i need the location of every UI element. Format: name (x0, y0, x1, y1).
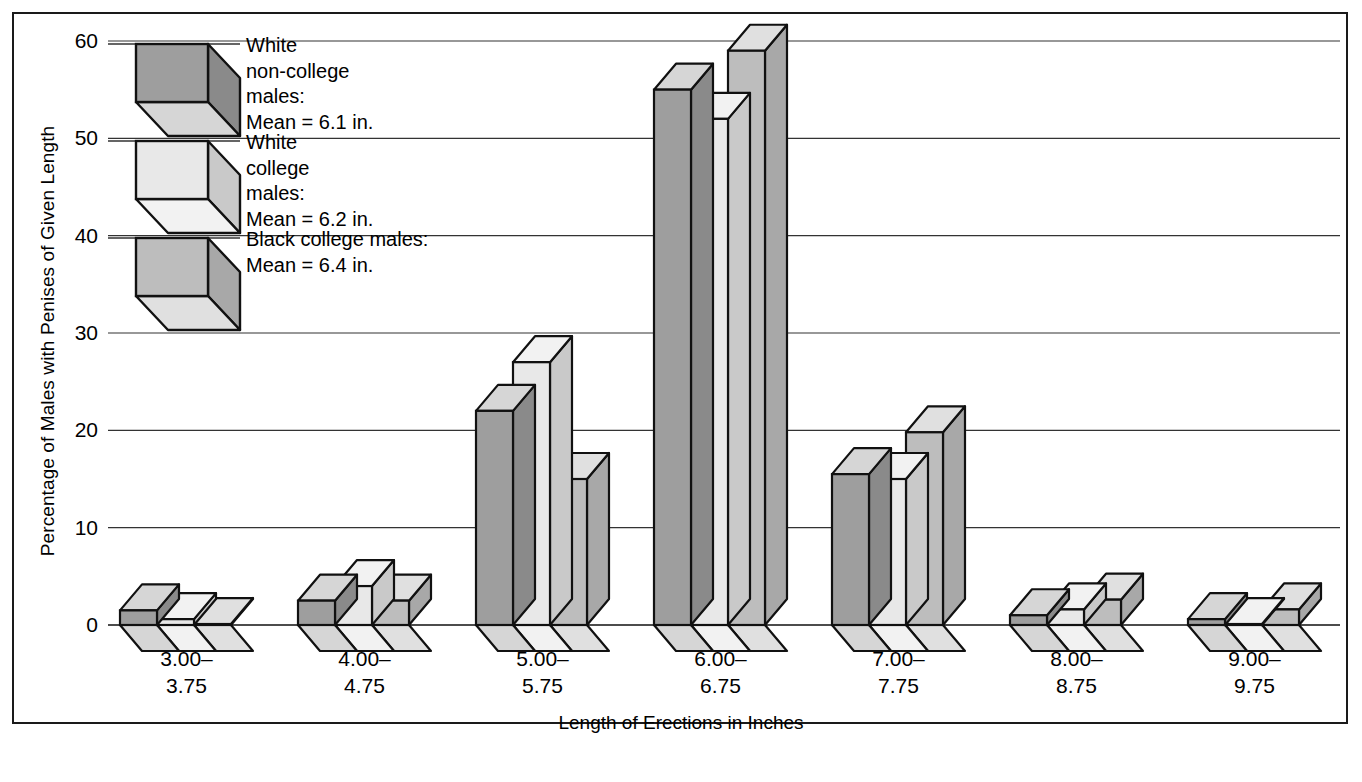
x-tick-line: 8.00– (997, 645, 1157, 672)
y-tick-label: 60 (52, 30, 98, 51)
x-tick-line: 7.00– (819, 645, 979, 672)
x-tick-line: 4.00– (285, 645, 445, 672)
x-tick-label: 5.00–5.75 (463, 645, 623, 699)
legend-swatch-white-non-college (136, 44, 240, 136)
x-tick-line: 7.75 (819, 672, 979, 699)
legend-swatch-black-college (136, 238, 240, 330)
x-tick-line: 3.75 (107, 672, 267, 699)
x-tick-line: 9.00– (1175, 645, 1335, 672)
x-tick-label: 8.00–8.75 (997, 645, 1157, 699)
legend-label-3: Black college males: Mean = 6.4 in. (246, 227, 428, 278)
bar-700775-s1 (832, 448, 891, 625)
x-tick-line: 4.75 (285, 672, 445, 699)
legend-swatch-white-college (136, 141, 240, 233)
x-axis-title: Length of Erections in Inches (0, 712, 1362, 734)
legend-label-1: White non-college males: Mean = 6.1 in. (246, 33, 373, 135)
x-tick-line: 8.75 (997, 672, 1157, 699)
x-tick-line: 5.75 (463, 672, 623, 699)
y-tick-label: 40 (52, 225, 98, 246)
legend-label-2: White college males: Mean = 6.2 in. (246, 130, 373, 232)
x-tick-label: 4.00–4.75 (285, 645, 445, 699)
x-tick-line: 9.75 (1175, 672, 1335, 699)
chart-page: Percentage of Males with Penises of Give… (0, 0, 1362, 782)
x-tick-line: 6.75 (641, 672, 801, 699)
y-tick-label: 20 (52, 419, 98, 440)
x-tick-line: 6.00– (641, 645, 801, 672)
legend-swatches (136, 44, 240, 330)
x-tick-label: 3.00–3.75 (107, 645, 267, 699)
x-tick-label: 7.00–7.75 (819, 645, 979, 699)
y-tick-label: 0 (52, 614, 98, 635)
x-tick-line: 5.00– (463, 645, 623, 672)
x-tick-label: 6.00–6.75 (641, 645, 801, 699)
x-tick-line: 3.00– (107, 645, 267, 672)
y-tick-label: 50 (52, 127, 98, 148)
y-tick-label: 30 (52, 322, 98, 343)
bar-500575-s1 (476, 385, 535, 625)
y-tick-label: 10 (52, 517, 98, 538)
x-tick-label: 9.00–9.75 (1175, 645, 1335, 699)
bar-600675-s1 (654, 64, 713, 625)
